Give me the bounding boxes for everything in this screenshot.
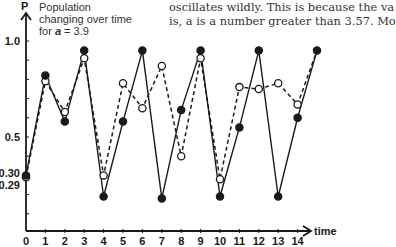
data-series: [22, 47, 320, 202]
x-tick-label: 5: [120, 235, 126, 247]
open-marker: [255, 85, 262, 92]
x-tick-label: 12: [253, 235, 265, 247]
open-marker: [100, 172, 107, 179]
x-tick-label: 2: [62, 235, 68, 247]
x-tick-label: 8: [178, 235, 184, 247]
open-marker: [275, 80, 282, 87]
y-tick-label: 0.29: [0, 179, 20, 191]
x-tick-label: 14: [291, 235, 304, 247]
y-tick-label: 0.30: [0, 167, 20, 179]
filled-marker: [313, 47, 320, 54]
open-marker: [119, 80, 126, 87]
x-tick-label: 3: [81, 235, 87, 247]
axes: Ptime1.00.50.300.2901234567891011121314: [0, 0, 337, 247]
x-axis-label: time: [314, 225, 337, 237]
filled-marker: [178, 107, 185, 114]
filled-marker: [294, 114, 301, 121]
open-marker: [158, 62, 165, 69]
filled-marker: [255, 47, 262, 54]
open-marker: [178, 153, 185, 160]
open-marker: [81, 55, 88, 62]
x-tick-label: 10: [214, 235, 226, 247]
x-tick-label: 13: [272, 235, 284, 247]
x-tick-label: 4: [101, 235, 108, 247]
filled-marker: [81, 47, 88, 54]
y-axis-label: P: [21, 0, 28, 12]
filled-marker: [139, 47, 146, 54]
filled-marker: [100, 193, 107, 200]
filled-marker: [275, 193, 282, 200]
filled-marker: [119, 118, 126, 125]
y-tick-label: 0.5: [5, 131, 20, 143]
x-tick-label: 6: [139, 235, 145, 247]
open-marker: [216, 176, 223, 183]
series-solid-line: [26, 51, 317, 199]
filled-marker: [236, 124, 243, 131]
filled-marker: [197, 47, 204, 54]
x-tick-label: 7: [159, 235, 165, 247]
filled-marker: [158, 195, 165, 202]
x-tick-label: 1: [42, 235, 48, 247]
open-marker: [197, 55, 204, 62]
filled-marker: [216, 193, 223, 200]
x-tick-label: 9: [198, 235, 204, 247]
open-marker: [294, 101, 301, 108]
open-marker: [61, 108, 68, 115]
filled-marker: [22, 172, 29, 179]
open-marker: [236, 84, 243, 91]
y-tick-label: 1.0: [5, 35, 20, 47]
open-marker: [139, 105, 146, 112]
filled-marker: [42, 72, 49, 79]
filled-marker: [61, 118, 68, 125]
x-tick-label: 0: [23, 235, 29, 247]
x-tick-label: 11: [234, 235, 246, 247]
